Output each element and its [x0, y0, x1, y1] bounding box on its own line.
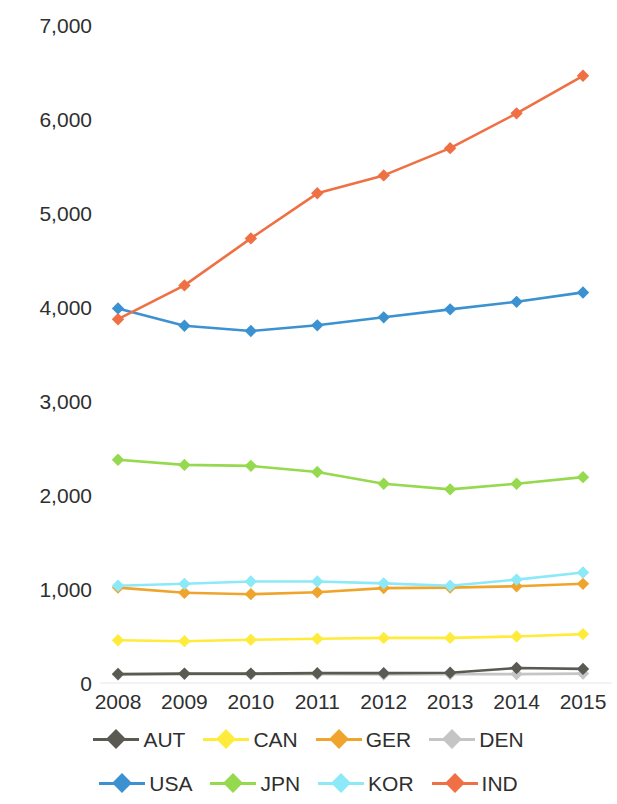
legend-item-jpn[interactable]: JPN [210, 773, 300, 794]
data-point-marker [577, 70, 589, 82]
series-usa [112, 286, 589, 337]
data-point-marker [311, 319, 323, 331]
x-axis-tick-label: 2012 [349, 690, 419, 714]
chart-legend: AUTCANGERDEN USAJPNKORIND [0, 720, 617, 804]
data-point-marker [311, 667, 323, 679]
x-axis-tick-label: 2015 [548, 690, 617, 714]
series-ind [112, 70, 589, 326]
data-point-marker [444, 483, 456, 495]
data-point-marker [510, 107, 522, 119]
legend-label: CAN [253, 729, 297, 750]
legend-label: AUT [143, 729, 185, 750]
x-axis-tick-label: 2013 [415, 690, 485, 714]
series-canvas [0, 0, 617, 700]
data-point-marker [378, 311, 390, 323]
data-point-marker [245, 325, 257, 337]
legend-diamond-icon [224, 773, 244, 793]
legend-diamond-icon [329, 729, 349, 749]
data-point-marker [112, 668, 124, 680]
data-point-marker [112, 580, 124, 592]
legend-row-2: USAJPNKORIND [0, 766, 617, 800]
legend-marker-icon [203, 729, 249, 749]
legend-item-ind[interactable]: IND [432, 773, 518, 794]
data-point-marker [577, 578, 589, 590]
data-point-marker [311, 466, 323, 478]
data-point-marker [112, 313, 124, 325]
data-point-marker [245, 634, 257, 646]
legend-label: KOR [368, 773, 414, 794]
legend-item-usa[interactable]: USA [99, 773, 192, 794]
x-axis-tick-label: 2014 [482, 690, 552, 714]
legend-marker-icon [210, 773, 256, 793]
legend-marker-icon [99, 773, 145, 793]
data-point-marker [311, 633, 323, 645]
legend-diamond-icon [445, 773, 465, 793]
data-point-marker [178, 578, 190, 590]
data-point-marker [577, 286, 589, 298]
data-point-marker [444, 580, 456, 592]
legend-diamond-icon [106, 729, 126, 749]
data-point-marker [178, 667, 190, 679]
data-point-marker [444, 632, 456, 644]
data-point-marker [311, 575, 323, 587]
legend-item-aut[interactable]: AUT [93, 729, 185, 750]
data-point-marker [245, 460, 257, 472]
legend-marker-icon [316, 729, 362, 749]
legend-diamond-icon [331, 773, 351, 793]
data-point-marker [444, 142, 456, 154]
data-point-marker [378, 667, 390, 679]
x-axis-tick-label: 2010 [216, 690, 286, 714]
legend-marker-icon [429, 729, 475, 749]
plot-area: 7,0006,0005,0004,0003,0002,0001,0000 [0, 0, 617, 700]
legend-marker-icon [318, 773, 364, 793]
legend-item-can[interactable]: CAN [203, 729, 297, 750]
data-point-marker [378, 169, 390, 181]
data-point-marker [178, 459, 190, 471]
legend-diamond-icon [442, 729, 462, 749]
x-axis-tick-label: 2009 [149, 690, 219, 714]
legend-item-kor[interactable]: KOR [318, 773, 414, 794]
legend-diamond-icon [216, 729, 236, 749]
x-axis: 20082009201020112012201320142015 [0, 690, 617, 720]
legend-label: IND [482, 773, 518, 794]
data-point-marker [112, 454, 124, 466]
data-point-marker [178, 635, 190, 647]
data-point-marker [510, 573, 522, 585]
data-point-marker [577, 566, 589, 578]
data-point-marker [510, 630, 522, 642]
legend-marker-icon [93, 729, 139, 749]
data-point-marker [444, 303, 456, 315]
data-point-marker [178, 320, 190, 332]
data-point-marker [444, 666, 456, 678]
legend-label: JPN [260, 773, 300, 794]
data-point-marker [245, 667, 257, 679]
data-point-marker [112, 634, 124, 646]
legend-diamond-icon [112, 773, 132, 793]
x-axis-tick-label: 2008 [83, 690, 153, 714]
data-point-marker [245, 588, 257, 600]
series-jpn [112, 454, 589, 496]
data-point-marker [510, 296, 522, 308]
data-point-marker [245, 575, 257, 587]
legend-label: GER [366, 729, 412, 750]
data-point-marker [577, 628, 589, 640]
legend-item-den[interactable]: DEN [429, 729, 523, 750]
legend-item-ger[interactable]: GER [316, 729, 412, 750]
data-point-marker [577, 471, 589, 483]
x-axis-tick-label: 2011 [282, 690, 352, 714]
legend-row-1: AUTCANGERDEN [0, 722, 617, 756]
data-point-marker [311, 586, 323, 598]
data-point-marker [378, 632, 390, 644]
data-point-marker [510, 478, 522, 490]
line-chart: 7,0006,0005,0004,0003,0002,0001,0000 200… [0, 0, 617, 804]
series-can [112, 628, 589, 647]
data-point-marker [112, 302, 124, 314]
data-point-marker [378, 478, 390, 490]
legend-label: USA [149, 773, 192, 794]
legend-label: DEN [479, 729, 523, 750]
legend-marker-icon [432, 773, 478, 793]
